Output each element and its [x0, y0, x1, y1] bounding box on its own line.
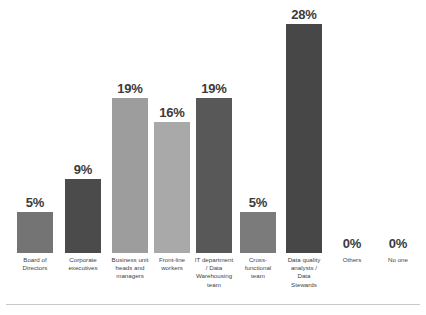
bar-slot: 0%	[380, 8, 416, 253]
x-axis-label-line: team	[188, 281, 240, 289]
bar-value-label: 0%	[372, 237, 424, 250]
bar[interactable]	[154, 122, 190, 253]
bar-slot: 5%	[240, 8, 276, 253]
x-axis-label-line: Board of	[9, 256, 61, 264]
bar-value-label: 9%	[57, 163, 109, 176]
x-axis-label-line: executives	[57, 264, 109, 272]
bar[interactable]	[65, 179, 101, 253]
x-axis-label-line: Stewards	[278, 281, 330, 289]
bar-slot: 28%	[286, 8, 322, 253]
bar-chart: 5% 9% 19% 16% 19% 5% 28% 0%	[0, 0, 426, 315]
plot-area: 5% 9% 19% 16% 19% 5% 28% 0%	[0, 8, 426, 253]
bar-value-label: 5%	[232, 196, 284, 209]
bar-slot: 19%	[112, 8, 148, 253]
x-axis-label: Cross-functionalteam	[232, 256, 284, 281]
bar-value-label: 19%	[104, 82, 156, 95]
x-axis-label-line: Corporate	[57, 256, 109, 264]
x-axis-label: Corporateexecutives	[57, 256, 109, 272]
x-axis-label-line: functional	[232, 264, 284, 272]
bar-slot: 19%	[196, 8, 232, 253]
x-axis-label-line: managers	[104, 272, 156, 280]
bar[interactable]	[286, 24, 322, 253]
x-axis-label: Others	[326, 256, 378, 264]
bar-slot: 0%	[334, 8, 370, 253]
bar[interactable]	[17, 212, 53, 253]
x-axis-label: Data qualityanalysts /DataStewards	[278, 256, 330, 289]
x-axis-label-line: team	[232, 272, 284, 280]
bar-value-label: 16%	[146, 106, 198, 119]
x-axis-label-line: Others	[326, 256, 378, 264]
bar-value-label: 0%	[326, 237, 378, 250]
bar[interactable]	[112, 98, 148, 253]
x-axis-label-line: Directors	[9, 264, 61, 272]
x-axis-labels: Board ofDirectors Corporateexecutives Bu…	[0, 256, 426, 306]
bar-slot: 9%	[65, 8, 101, 253]
bar-value-label: 19%	[188, 82, 240, 95]
x-axis-label-line: Data	[278, 272, 330, 280]
bar[interactable]	[196, 98, 232, 253]
footer-divider	[6, 304, 420, 305]
bar-slot: 16%	[154, 8, 190, 253]
bar[interactable]	[240, 212, 276, 253]
x-axis-label: Board ofDirectors	[9, 256, 61, 272]
x-axis-label-line: Data quality	[278, 256, 330, 264]
bar-value-label: 5%	[9, 196, 61, 209]
x-axis-label-line: No one	[372, 256, 424, 264]
bar-value-label: 28%	[278, 8, 330, 21]
x-axis-label-line: Cross-	[232, 256, 284, 264]
x-axis-label-line: analysts /	[278, 264, 330, 272]
x-axis-label: No one	[372, 256, 424, 264]
bar-slot: 5%	[17, 8, 53, 253]
